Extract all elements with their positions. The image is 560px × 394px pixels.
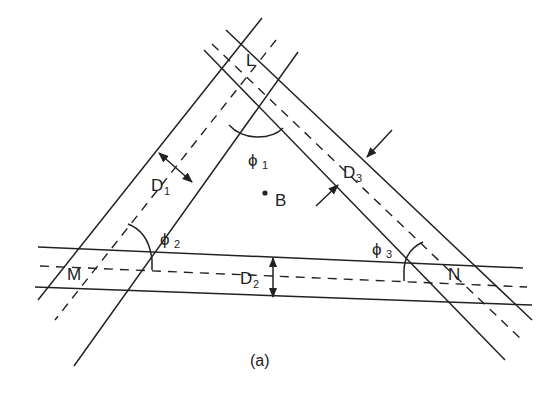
width-label-d3: D 3: [343, 163, 362, 184]
strip-ln-inner-edge: [204, 50, 505, 360]
d1-dimension-arrow: [159, 153, 192, 182]
triangle-strips-diagram: B L M N ϕ 1 ϕ 2 ϕ 3 D 1 D 2 D 3 (a): [0, 0, 560, 394]
strip-ln-centerline: [212, 44, 520, 338]
svg-text:1: 1: [262, 159, 268, 171]
strip-lm-inner-edge: [74, 52, 298, 366]
figure-caption: (a): [250, 352, 270, 369]
svg-text:ϕ: ϕ: [248, 151, 258, 170]
strip-ln: [204, 30, 532, 360]
vertex-m-label: M: [67, 265, 81, 284]
angle-arc-phi2: [128, 224, 152, 270]
svg-text:D: D: [240, 269, 252, 288]
svg-text:2: 2: [174, 238, 180, 250]
svg-text:D: D: [343, 163, 355, 182]
width-label-d1: D 1: [151, 176, 170, 197]
d3-arrow-outer: [367, 130, 392, 157]
svg-text:D: D: [151, 176, 163, 195]
angle-label-phi1: ϕ 1: [248, 151, 268, 171]
width-label-d2: D 2: [240, 269, 259, 290]
angle-arc-phi1: [229, 125, 283, 137]
svg-text:3: 3: [386, 248, 392, 260]
d3-arrow-inner: [316, 185, 338, 206]
angle-arc-phi3: [404, 242, 423, 281]
vertex-n-label: N: [448, 265, 460, 284]
svg-text:1: 1: [164, 185, 170, 197]
angle-label-phi2: ϕ 2: [160, 230, 180, 250]
angle-label-phi3: ϕ 3: [372, 240, 392, 260]
strip-mn-bottom-edge: [35, 287, 532, 305]
svg-text:ϕ: ϕ: [160, 230, 170, 249]
svg-text:2: 2: [253, 278, 259, 290]
point-b-dot: [262, 190, 267, 195]
vertex-l-label: L: [246, 51, 255, 70]
svg-text:ϕ: ϕ: [372, 240, 382, 259]
svg-text:3: 3: [356, 172, 362, 184]
point-b-label: B: [275, 191, 286, 210]
